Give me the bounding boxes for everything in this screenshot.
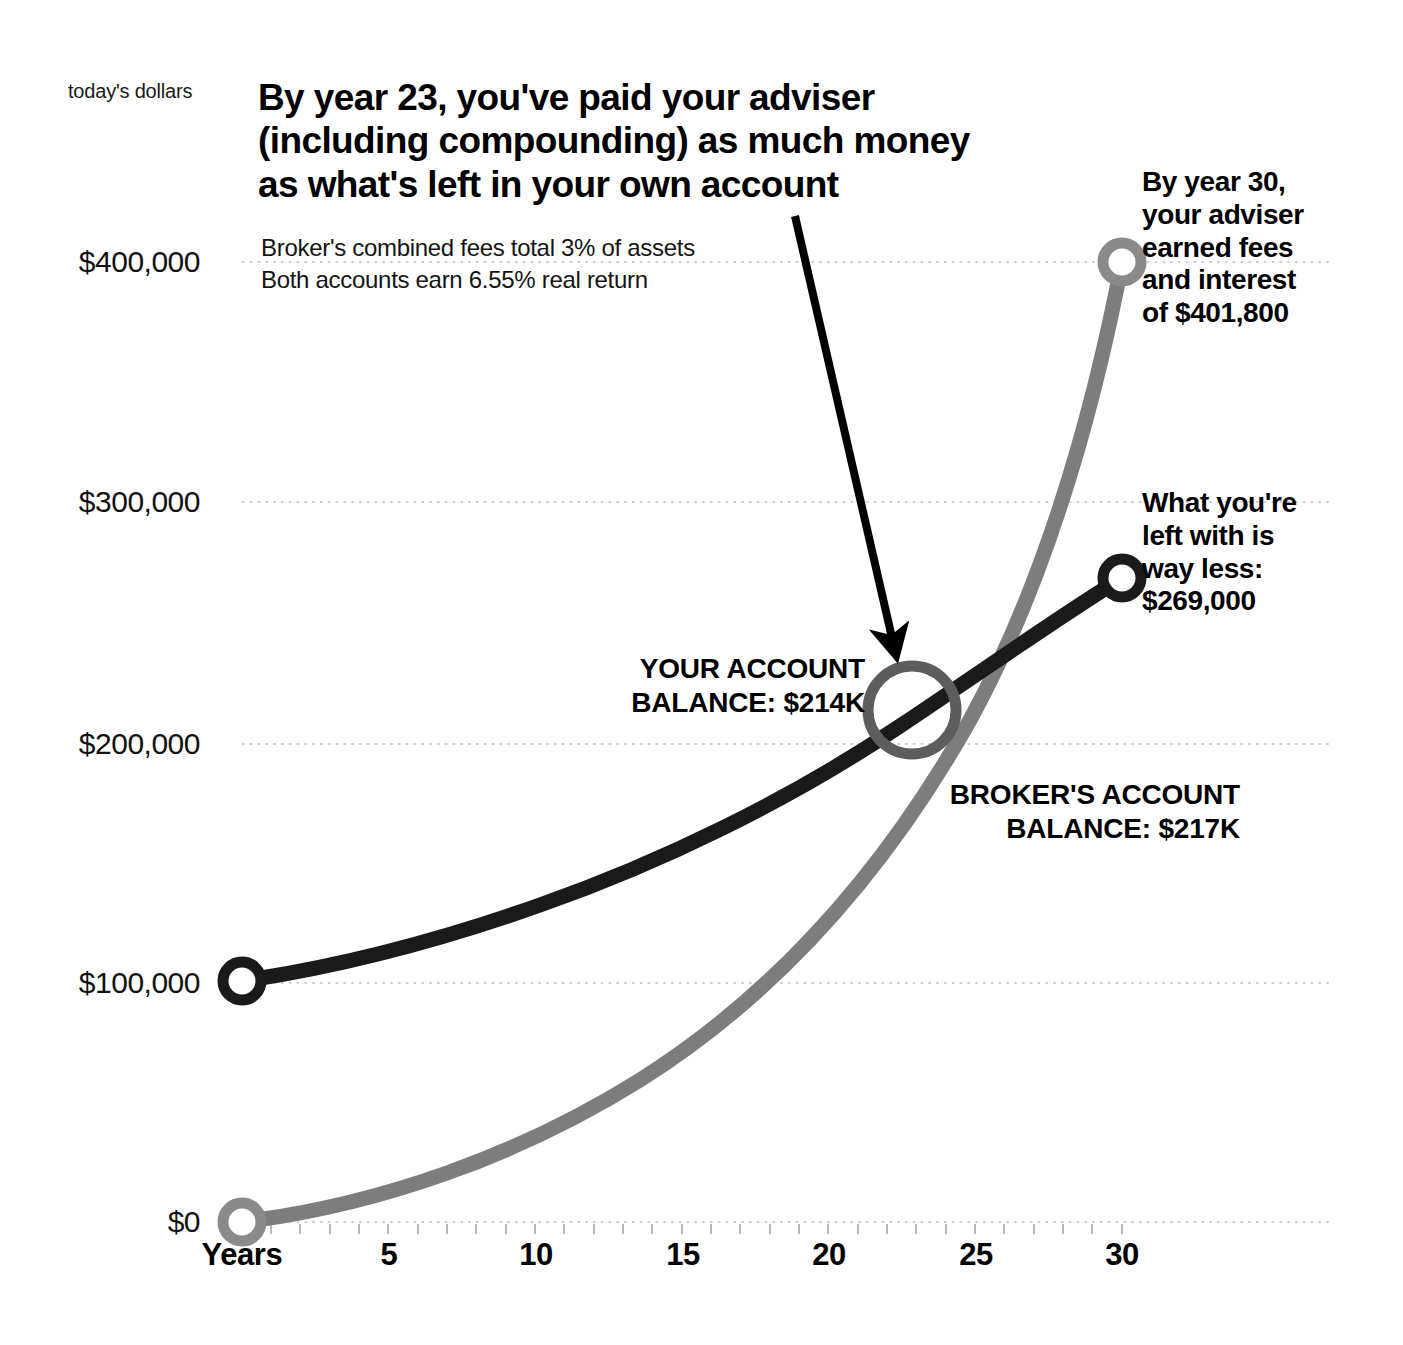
x-axis-label-10: 10	[519, 1237, 553, 1273]
x-axis-minor-ticks	[271, 1224, 1122, 1234]
chart-title-line-3: as what's left in your own account	[258, 163, 1078, 206]
annotation-crossover-your-account: YOUR ACCOUNT BALANCE: $214K	[545, 652, 865, 719]
annotation-crossover-your-line-2: BALANCE: $214K	[545, 686, 865, 720]
annotation-brokers-line-4: and interest	[1142, 264, 1392, 297]
x-axis-label-30: 30	[1105, 1237, 1139, 1273]
annotation-brokers-line-5: of $401,800	[1142, 297, 1392, 330]
annotation-crossover-brokers-line-1: BROKER'S ACCOUNT	[880, 778, 1240, 812]
chart-subtitle: Broker's combined fees total 3% of asset…	[261, 232, 821, 297]
annotation-brokers-line-3: earned fees	[1142, 232, 1392, 265]
chart-subtitle-line-1: Broker's combined fees total 3% of asset…	[261, 232, 821, 264]
marker-your-account-start	[223, 962, 261, 1000]
x-axis-label-years: Years	[202, 1237, 283, 1273]
annotation-brokers-line-1: By year 30,	[1142, 166, 1392, 199]
annotation-brokers-line-2: your adviser	[1142, 199, 1392, 232]
annotation-your-line-4: $269,000	[1142, 585, 1392, 618]
annotation-your-line-1: What you're	[1142, 487, 1392, 520]
gridlines	[242, 262, 1330, 1222]
chart-title-line-2: (including compounding) as much money	[258, 119, 1078, 162]
chart-title-line-1: By year 23, you've paid your adviser	[258, 76, 1078, 119]
annotation-your-line-3: way less:	[1142, 553, 1392, 586]
annotation-crossover-brokers-line-2: BALANCE: $217K	[880, 812, 1240, 846]
marker-your-account-end	[1103, 559, 1141, 597]
y-axis-label-200000: $200,000	[10, 727, 200, 761]
y-axis-label-400000: $400,000	[10, 245, 200, 279]
annotation-brokers-account-end: By year 30, your adviser earned fees and…	[1142, 166, 1392, 330]
marker-brokers-account-start	[223, 1203, 261, 1241]
annotation-brokers-text-1: By year 30,	[1142, 166, 1286, 197]
x-axis-label-5: 5	[381, 1237, 398, 1273]
annotation-your-line-2: left with is	[1142, 520, 1392, 553]
x-axis-label-15: 15	[666, 1237, 700, 1273]
axis-unit-caption: today's dollars	[68, 80, 192, 103]
annotation-crossover-brokers-text-1: BROKER'S ACCOUNT	[950, 779, 1240, 810]
x-axis-label-25: 25	[959, 1237, 993, 1273]
y-axis-label-100000: $100,000	[10, 966, 200, 1000]
chart-title: By year 23, you've paid your adviser (in…	[258, 76, 1078, 206]
series-line-brokers-account	[242, 262, 1122, 1222]
annotation-your-account-end: What you're left with is way less: $269,…	[1142, 487, 1392, 618]
y-axis-label-0: $0	[10, 1205, 200, 1239]
x-axis-label-20: 20	[812, 1237, 846, 1273]
annotation-your-text-1: What you're	[1142, 487, 1297, 518]
annotation-crossover-brokers-account: BROKER'S ACCOUNT BALANCE: $217K	[880, 778, 1240, 845]
annotation-crossover-your-line-1: YOUR ACCOUNT	[545, 652, 865, 686]
marker-brokers-account-end	[1103, 243, 1141, 281]
chart-subtitle-line-2: Both accounts earn 6.55% real return	[261, 264, 821, 296]
y-axis-label-300000: $300,000	[10, 485, 200, 519]
annotation-crossover-your-text-1: YOUR ACCOUNT	[640, 653, 865, 684]
